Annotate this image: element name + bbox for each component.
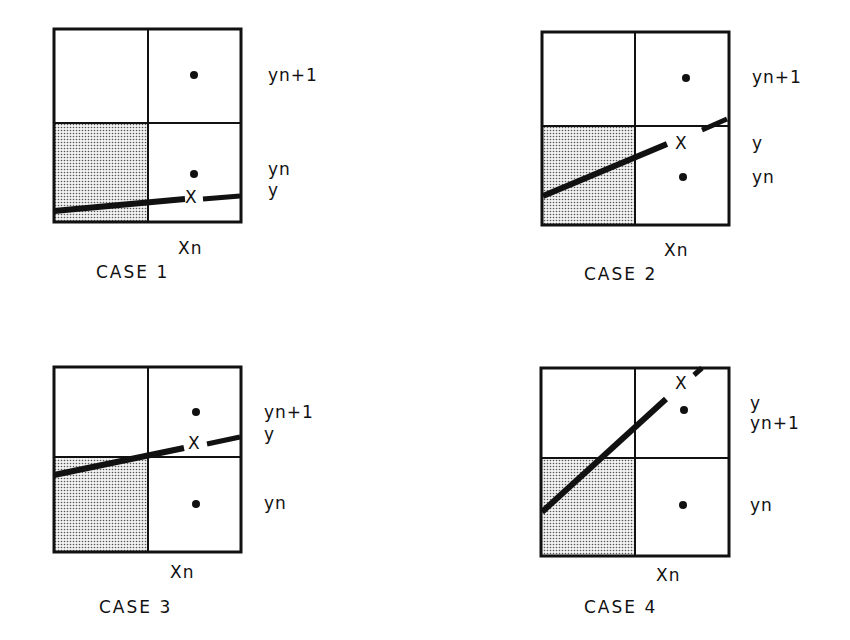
label-yn: yn — [264, 493, 287, 513]
case-caption: CASE 1 — [96, 262, 169, 282]
label-yn-plus-1: yn+1 — [752, 67, 802, 87]
intersection-marker: X — [185, 187, 198, 207]
label-y: y — [268, 180, 279, 200]
intersection-marker: X — [675, 373, 688, 393]
pixel-dot-yn-plus-1 — [190, 71, 198, 79]
pixel-dot-yn — [679, 173, 687, 181]
label-yn: yn — [750, 495, 773, 515]
x-label: Xn — [178, 238, 202, 258]
x-label: Xn — [656, 565, 680, 585]
label-y: y — [750, 393, 761, 413]
x-label: Xn — [664, 240, 688, 260]
case-3-grid — [54, 367, 241, 552]
pixel-dot-yn — [679, 501, 687, 509]
case-caption: CASE 2 — [584, 264, 657, 284]
pixel-dot-yn-plus-1 — [680, 406, 688, 414]
case-4-grid — [541, 368, 729, 556]
case-caption: CASE 3 — [99, 597, 172, 617]
case-1-grid — [54, 29, 241, 222]
label-y: y — [264, 424, 275, 444]
label-yn-plus-1: yn+1 — [750, 413, 800, 433]
pixel-dot-yn — [192, 500, 200, 508]
label-yn: yn — [752, 167, 775, 187]
case-caption: CASE 4 — [584, 597, 657, 617]
label-yn-plus-1: yn+1 — [264, 402, 314, 422]
pixel-dot-yn-plus-1 — [192, 408, 200, 416]
label-yn: yn — [268, 159, 291, 179]
label-yn-plus-1: yn+1 — [268, 65, 318, 85]
intersection-marker: X — [675, 133, 688, 153]
case-2-grid — [542, 32, 729, 225]
diagram-canvas — [0, 0, 850, 640]
pixel-dot-yn — [190, 170, 198, 178]
intersection-marker: X — [188, 433, 201, 453]
label-y: y — [752, 133, 763, 153]
pixel-dot-yn-plus-1 — [682, 74, 690, 82]
x-label: Xn — [170, 562, 194, 582]
